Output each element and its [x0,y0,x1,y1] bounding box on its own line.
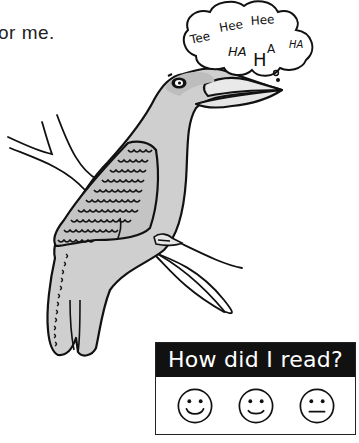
bubble-text-a: A [267,42,276,56]
smile-face-icon[interactable] [237,387,275,425]
bird-wing [54,142,158,246]
bubble-text-hee-2: Hee [250,12,275,28]
faces-row [156,377,355,434]
neutral-face-icon[interactable] [298,387,336,425]
rating-title: How did I read? [156,343,355,377]
bubble-text-ha-1: HA [228,44,247,59]
bubble-text-ha-2: HA [289,39,304,50]
bird-feet [154,234,182,245]
happy-face-icon[interactable] [176,387,214,425]
bubble-text-h: H [253,49,267,70]
reading-self-assessment: How did I read? [155,342,356,435]
